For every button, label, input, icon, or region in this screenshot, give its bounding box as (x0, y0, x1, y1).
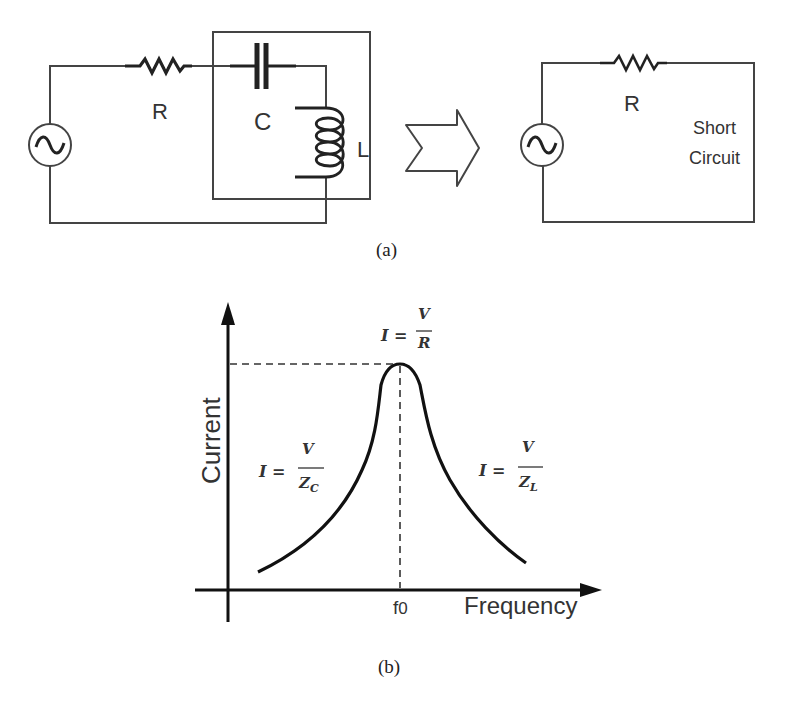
svg-text:I =: I = (478, 461, 505, 480)
left-circuit-bottom-wire (50, 166, 326, 223)
left-circuit: R C L (29, 32, 370, 223)
svg-text:R: R (417, 334, 430, 352)
caption-a: (a) (376, 239, 397, 261)
resonance-figure: R C L R Sho (0, 0, 786, 706)
peak-equation: I = V R (380, 305, 432, 352)
short-circuit-label-line1: Short (693, 118, 736, 138)
resistor-label: R (152, 99, 168, 124)
svg-text:V: V (522, 438, 535, 456)
ac-source-icon (29, 124, 71, 166)
transform-arrow-icon (406, 110, 479, 186)
capacitor-lead-right (266, 66, 326, 108)
svg-text:ZC: ZC (298, 474, 319, 495)
right-circuit-wire (542, 63, 754, 222)
inductive-equation: I = V ZL (478, 438, 543, 494)
capacitor-label: C (254, 108, 271, 135)
resistor-icon (125, 59, 192, 73)
svg-text:ZL: ZL (518, 473, 538, 494)
x-axis-arrow-icon (580, 583, 602, 597)
y-axis-arrow-icon (221, 302, 235, 325)
right-circuit: R Short Circuit (521, 56, 754, 222)
ac-source-icon (521, 124, 563, 166)
inductor-icon (295, 108, 343, 177)
capacitor-icon (230, 43, 296, 89)
svg-text:f0: f0 (393, 597, 408, 618)
inductor-label: L (357, 137, 369, 162)
caption-b: (b) (378, 656, 400, 678)
y-axis-label: Current (196, 397, 226, 484)
tank-circuit-box (213, 32, 370, 199)
resonance-graph: Current Frequency f0 I = V R I = V ZC I … (195, 302, 602, 622)
short-circuit-label-line2: Circuit (689, 148, 740, 168)
x-axis-label: Frequency (464, 592, 577, 619)
svg-text:I =: I = (258, 462, 285, 481)
resistor-icon (600, 56, 667, 70)
left-circuit-top-wire-left (50, 66, 125, 124)
svg-text:V: V (418, 305, 431, 323)
svg-text:V: V (302, 440, 315, 458)
capacitive-equation: I = V ZC (258, 440, 324, 495)
resonant-frequency-tick-label: f0 (393, 597, 408, 618)
resistor-label: R (624, 91, 640, 116)
svg-text:I =: I = (380, 326, 407, 345)
